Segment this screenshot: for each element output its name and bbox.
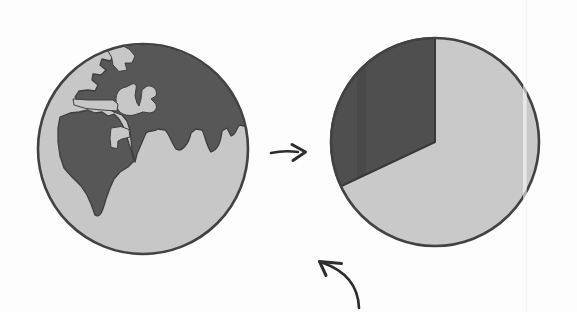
- scene-svg: [0, 0, 577, 312]
- earth-globe-icon: [38, 33, 259, 254]
- pie-chart: [331, 34, 539, 246]
- print-band-artifact: [357, 34, 366, 192]
- right-arrow-shaft: [271, 151, 298, 153]
- illustration-canvas: [0, 0, 577, 312]
- mediterranean-sea: [116, 84, 156, 116]
- right-arrow-icon: [271, 145, 306, 161]
- curved-arrow-icon: [320, 262, 360, 309]
- curved-arrow-shaft: [322, 263, 359, 309]
